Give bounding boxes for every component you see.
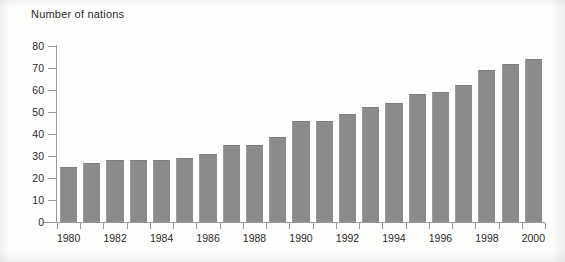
x-axis-tick-label: 1984: [150, 232, 173, 244]
y-axis-labels: 01020304050607080: [20, 0, 44, 262]
x-axis-tick: [173, 223, 174, 229]
bar: [199, 154, 216, 222]
y-axis-tick: [48, 222, 56, 223]
x-axis-tick: [382, 223, 383, 229]
x-axis-tick: [150, 223, 151, 229]
bar: [362, 107, 379, 223]
bar: [502, 64, 519, 222]
y-axis-tick-label: 50: [22, 106, 44, 118]
x-axis-tick: [522, 223, 523, 229]
bar: [83, 163, 100, 222]
y-axis-tick-label: 60: [22, 84, 44, 96]
bar: [339, 114, 356, 222]
chart-title: Number of nations: [31, 8, 124, 20]
x-axis-tick-label: 1986: [196, 232, 219, 244]
x-axis-tick: [289, 223, 290, 229]
bar: [316, 121, 333, 222]
y-axis-tick: [48, 178, 56, 179]
bar: [106, 160, 123, 222]
bar: [478, 70, 495, 222]
x-axis-line: [44, 222, 545, 223]
y-axis-tick: [48, 134, 56, 135]
x-axis-tick: [57, 223, 58, 229]
x-axis-tick-label: 1996: [429, 232, 452, 244]
x-axis-tick: [220, 223, 221, 229]
x-axis-tick: [336, 223, 337, 229]
bar-chart-figure: Number of nations 01020304050607080 1980…: [0, 0, 565, 262]
y-axis-tick-label: 20: [22, 172, 44, 184]
bar: [432, 92, 449, 222]
bar: [525, 59, 542, 222]
plot-area: [57, 46, 545, 222]
bar: [385, 103, 402, 222]
bar: [176, 158, 193, 222]
y-axis-tick-label: 10: [22, 194, 44, 206]
x-axis-tick-label: 1982: [103, 232, 126, 244]
x-axis-tick-label: 1990: [289, 232, 312, 244]
bar: [292, 121, 309, 222]
bar: [409, 94, 426, 222]
bar: [130, 160, 147, 222]
x-axis-tick: [313, 223, 314, 229]
y-axis-tick: [48, 68, 56, 69]
x-axis-tick-label: 1994: [382, 232, 405, 244]
x-axis-tick: [359, 223, 360, 229]
x-axis-tick: [429, 223, 430, 229]
bar: [455, 85, 472, 223]
x-axis-tick-label: 1980: [57, 232, 80, 244]
x-axis-tick: [196, 223, 197, 229]
x-axis-tick: [103, 223, 104, 229]
y-axis-tick-label: 40: [22, 128, 44, 140]
x-axis-tick-label: 2000: [522, 232, 545, 244]
x-axis-tick: [266, 223, 267, 229]
x-axis-tick: [545, 223, 546, 229]
bar: [60, 167, 77, 222]
bar: [269, 137, 286, 222]
x-axis-tick: [452, 223, 453, 229]
x-axis-tick-label: 1992: [336, 232, 359, 244]
x-axis-tick: [406, 223, 407, 229]
y-axis-tick: [48, 46, 56, 47]
x-axis-tick: [80, 223, 81, 229]
x-axis-tick-label: 1998: [475, 232, 498, 244]
y-axis-tick: [48, 200, 56, 201]
y-axis-tick-label: 70: [22, 62, 44, 74]
x-axis-tick-label: 1988: [243, 232, 266, 244]
x-axis-tick: [499, 223, 500, 229]
y-axis-tick: [48, 156, 56, 157]
y-axis-tick-label: 30: [22, 150, 44, 162]
bar: [223, 145, 240, 222]
y-axis-tick-label: 0: [22, 216, 44, 228]
x-axis-tick: [127, 223, 128, 229]
y-axis-tick-label: 80: [22, 40, 44, 52]
x-axis-tick: [243, 223, 244, 229]
y-axis-tick: [48, 90, 56, 91]
x-axis-tick: [475, 223, 476, 229]
bar: [153, 160, 170, 222]
bar: [246, 145, 263, 222]
y-axis-tick: [48, 112, 56, 113]
